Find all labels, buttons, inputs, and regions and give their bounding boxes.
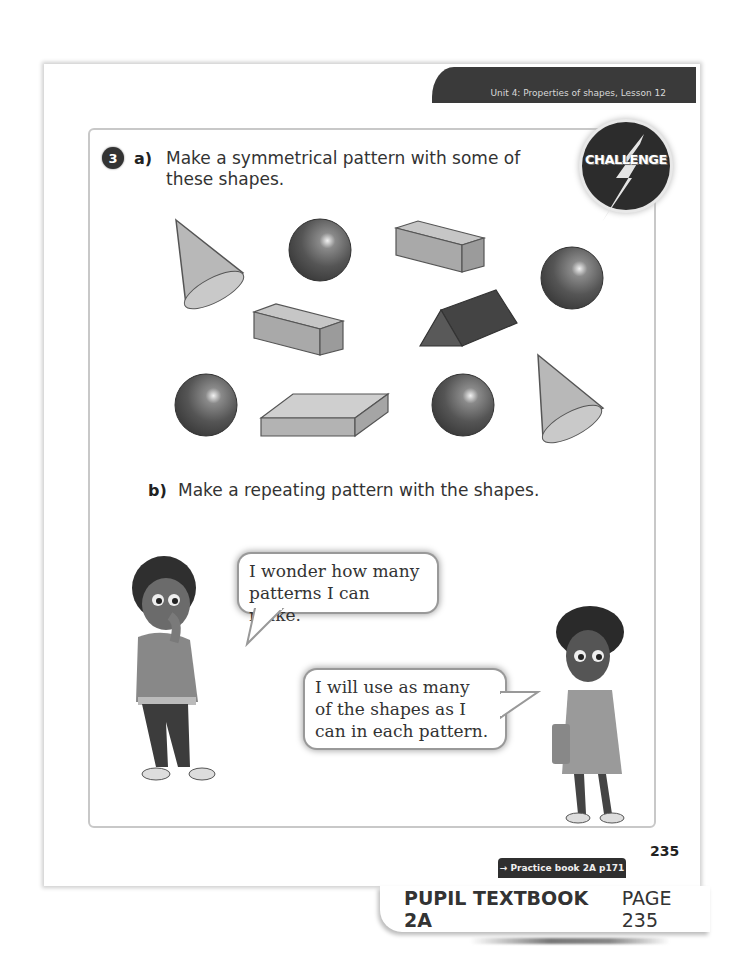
flat-cuboid-shape xyxy=(261,394,388,436)
boy-bubble-tail xyxy=(245,608,305,648)
practice-book-link[interactable]: → Practice book 2A p171 xyxy=(498,858,626,878)
sphere-shape xyxy=(432,374,494,436)
sphere-shape xyxy=(289,219,351,281)
book-title: PUPIL TEXTBOOK 2A xyxy=(404,887,614,931)
sphere-shape xyxy=(175,374,237,436)
part-b-text: Make a repeating pattern with the shapes… xyxy=(178,480,539,501)
cone-shape xyxy=(176,220,249,316)
boy-speech-bubble: I wonder how many patterns I can make. xyxy=(239,554,437,612)
part-b-label: b) xyxy=(148,481,167,500)
cuboid-shape xyxy=(396,221,484,272)
book-page-tab: PUPIL TEXTBOOK 2A PAGE 235 xyxy=(380,886,710,932)
girl-speech-line-2: of the shapes as I xyxy=(315,698,495,720)
triangular-prism-shape xyxy=(420,290,517,346)
boy-speech-line-1: I wonder how many xyxy=(249,560,427,582)
page-number: 235 xyxy=(650,843,679,859)
boy-character xyxy=(118,552,228,792)
cuboid-shape xyxy=(254,304,343,355)
girl-speech-line-3: can in each pattern. xyxy=(315,720,495,742)
girl-speech-bubble: I will use as many of the shapes as I ca… xyxy=(305,670,505,748)
footer-shadow xyxy=(470,938,670,944)
sphere-shape xyxy=(541,247,603,309)
cone-shape xyxy=(537,355,607,450)
girl-speech-line-1: I will use as many xyxy=(315,676,495,698)
girl-character xyxy=(548,604,638,834)
page-label: PAGE 235 xyxy=(622,887,710,931)
girl-bubble-tail xyxy=(500,688,542,728)
